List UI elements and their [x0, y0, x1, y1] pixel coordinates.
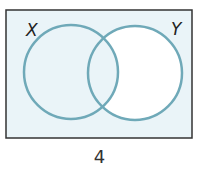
- diagram-caption: 4: [0, 146, 199, 167]
- set-y-label: Y: [171, 19, 183, 39]
- set-x-label: X: [25, 20, 38, 40]
